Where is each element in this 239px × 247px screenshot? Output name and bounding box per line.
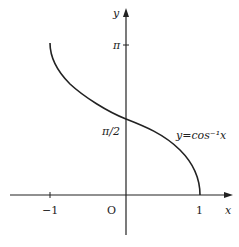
y-tick-label-pi-half: π/2 [101,125,120,138]
y-axis-arrow-icon [123,8,129,17]
y-tick-label-pi: π [112,39,121,52]
arccos-curve [50,43,200,195]
x-tick-label-one: 1 [196,204,203,217]
origin-label: O [107,204,116,217]
x-tick-label-minus-one: −1 [42,204,58,217]
chart-canvas: y x −1 O 1 π π/2 y=cos⁻¹x [0,0,239,247]
x-axis-arrow-icon [224,192,233,198]
y-axis-label: y [112,7,120,20]
curve-label: y=cos⁻¹x [175,129,227,142]
x-axis-label: x [225,204,232,217]
